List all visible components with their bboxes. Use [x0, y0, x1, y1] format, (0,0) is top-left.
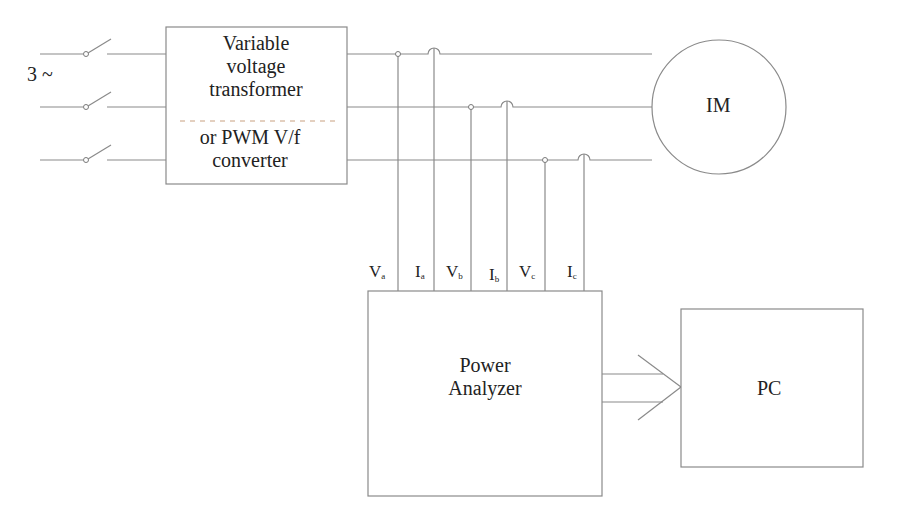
- switch-phase-a: [40, 39, 166, 57]
- pc-label: PC: [757, 377, 781, 400]
- converter-line-5: converter: [160, 149, 340, 172]
- signal-label-vb: Vb: [446, 262, 463, 282]
- signal-label-ia: Ia: [415, 262, 425, 282]
- signal-label-vc: Vc: [519, 262, 535, 282]
- converter-line-3: transformer: [166, 78, 346, 101]
- analyzer-line-2: Analyzer: [368, 377, 602, 400]
- block-diagram: 3 ~ Variable voltage transformer or PWM …: [0, 0, 899, 520]
- converter-line-2: voltage: [166, 55, 346, 78]
- switch-phase-c: [40, 145, 166, 163]
- converter-label-top: Variable voltage transformer: [166, 32, 346, 101]
- phase-c-line: [347, 154, 652, 160]
- converter-label-bottom: or PWM V/f converter: [160, 126, 340, 172]
- power-analyzer-label: Power Analyzer: [368, 354, 602, 400]
- phase-a-line: [347, 48, 652, 54]
- signal-label-ic: Ic: [567, 262, 577, 282]
- switch-phase-b: [40, 92, 166, 110]
- signal-label-ib: Ib: [489, 265, 499, 285]
- data-arrow: [602, 355, 681, 420]
- converter-line-1: Variable: [166, 32, 346, 55]
- motor-label: IM: [706, 94, 730, 117]
- signal-label-va: Va: [369, 262, 385, 282]
- analyzer-line-1: Power: [368, 354, 602, 377]
- phase-b-line: [347, 101, 652, 107]
- diagram-canvas: [0, 0, 899, 520]
- three-phase-source-label: 3 ~: [27, 63, 53, 86]
- converter-line-4: or PWM V/f: [160, 126, 340, 149]
